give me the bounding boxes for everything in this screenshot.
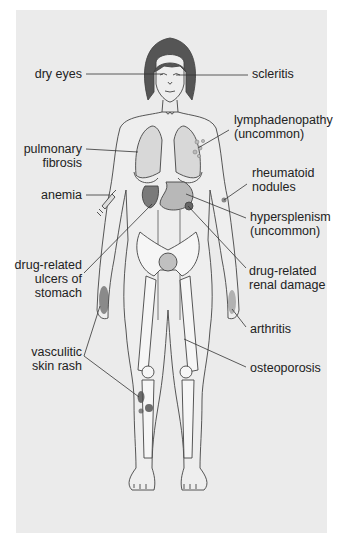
left-tibia [142,380,154,458]
leader-rheumatoid-nodules [224,184,247,200]
face [156,55,184,103]
label-pulmonary-fibrosis: pulmonary fibrosis [18,142,82,170]
left-wrist-inflammation [99,286,109,314]
label-arthritis: arthritis [250,322,291,336]
right-wrist-inflammation [228,290,236,314]
label-hypersplenism: hypersplenism (uncommon) [250,210,331,238]
label-drug-related-ulcers: drug-related ulcers of stomach [14,258,82,300]
spleen [185,202,193,210]
label-lymphadenopathy: lymphadenopathy (uncommon) [234,113,333,141]
label-osteoporosis: osteoporosis [250,361,321,375]
body-outline [97,112,239,490]
right-tibia [182,380,194,458]
label-drug-related-renal-damage: drug-related renal damage [249,264,325,292]
bladder [159,253,177,271]
label-dry-eyes: dry eyes [27,67,82,81]
label-scleritis: scleritis [252,67,294,81]
label-vasculitic-skin-rash: vasculitic skin rash [20,345,82,373]
label-rheumatoid-nodules: rheumatoid nodules [252,166,315,194]
label-anemia: anemia [27,188,82,202]
